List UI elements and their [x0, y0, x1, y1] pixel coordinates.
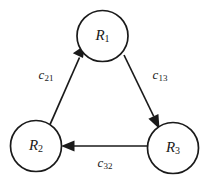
node-r3-base: R [165, 139, 175, 155]
diagram-canvas: R1 R2 R3 c21 c13 c32 [0, 0, 209, 185]
node-r1-base: R [94, 27, 104, 43]
edge-label-c21: c21 [39, 67, 54, 83]
node-r1-subscript: 1 [105, 33, 110, 44]
arrowhead-into-r2 [61, 140, 75, 151]
edge-label-c21-subscript: 21 [44, 73, 53, 83]
edge-r3-to-r2 [61, 140, 148, 151]
node-r3[interactable]: R3 [148, 123, 199, 174]
edge-label-c32: c32 [98, 155, 113, 171]
edge-label-c32-subscript: 32 [103, 161, 112, 171]
node-r2[interactable]: R2 [11, 121, 62, 172]
directed-graph-svg: R1 R2 R3 c21 c13 c32 [0, 0, 209, 185]
node-r1[interactable]: R1 [77, 11, 128, 62]
edge-label-c13-subscript: 13 [158, 73, 168, 83]
node-r2-base: R [28, 137, 38, 153]
edge-line-r1-r3 [124, 55, 154, 117]
node-r2-subscript: 2 [38, 143, 43, 154]
edge-line-r2-r1 [50, 58, 80, 125]
edge-label-c13: c13 [153, 67, 168, 83]
node-r3-subscript: 3 [175, 145, 180, 156]
edge-r2-to-r1 [50, 45, 85, 125]
